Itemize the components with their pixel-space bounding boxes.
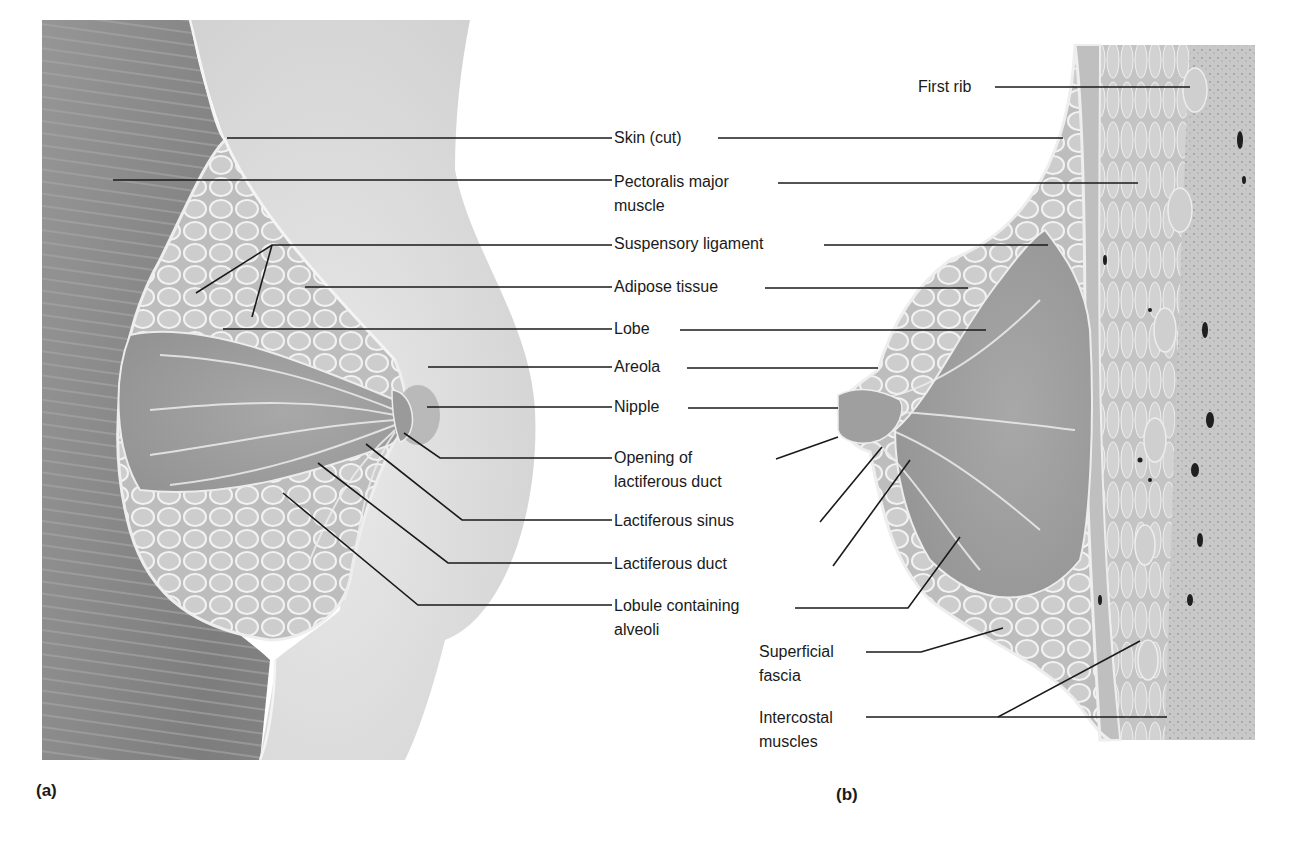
label-suspensory-ligament: Suspensory ligament [614, 234, 763, 254]
label-nipple: Nipple [614, 397, 659, 417]
label-lobe: Lobe [614, 319, 650, 339]
panel-b-illustration [838, 45, 1255, 740]
label-opening-lactiferous-duct: Opening of [614, 448, 692, 468]
label-opening-lactiferous-duct-line2: lactiferous duct [614, 472, 722, 492]
label-superficial-fascia: Superficial [759, 642, 834, 662]
label-lactiferous-duct: Lactiferous duct [614, 554, 727, 574]
panel-a-tag: (a) [36, 781, 57, 801]
panel-a-illustration [42, 20, 535, 760]
label-pectoralis-major-line2: muscle [614, 196, 665, 216]
label-skin-cut: Skin (cut) [614, 128, 682, 148]
panel-b-tag: (b) [836, 785, 858, 805]
label-intercostal-muscles: Intercostal [759, 708, 833, 728]
anatomy-illustration [0, 0, 1293, 844]
label-superficial-fascia-line2: fascia [759, 666, 801, 686]
label-adipose-tissue: Adipose tissue [614, 277, 718, 297]
label-lactiferous-sinus: Lactiferous sinus [614, 511, 734, 531]
label-lobule-alveoli-line2: alveoli [614, 620, 659, 640]
label-intercostal-muscles-line2: muscles [759, 732, 818, 752]
label-lobule-alveoli: Lobule containing [614, 596, 739, 616]
label-areola: Areola [614, 357, 660, 377]
label-first-rib: First rib [918, 77, 971, 97]
label-pectoralis-major: Pectoralis major [614, 172, 729, 192]
